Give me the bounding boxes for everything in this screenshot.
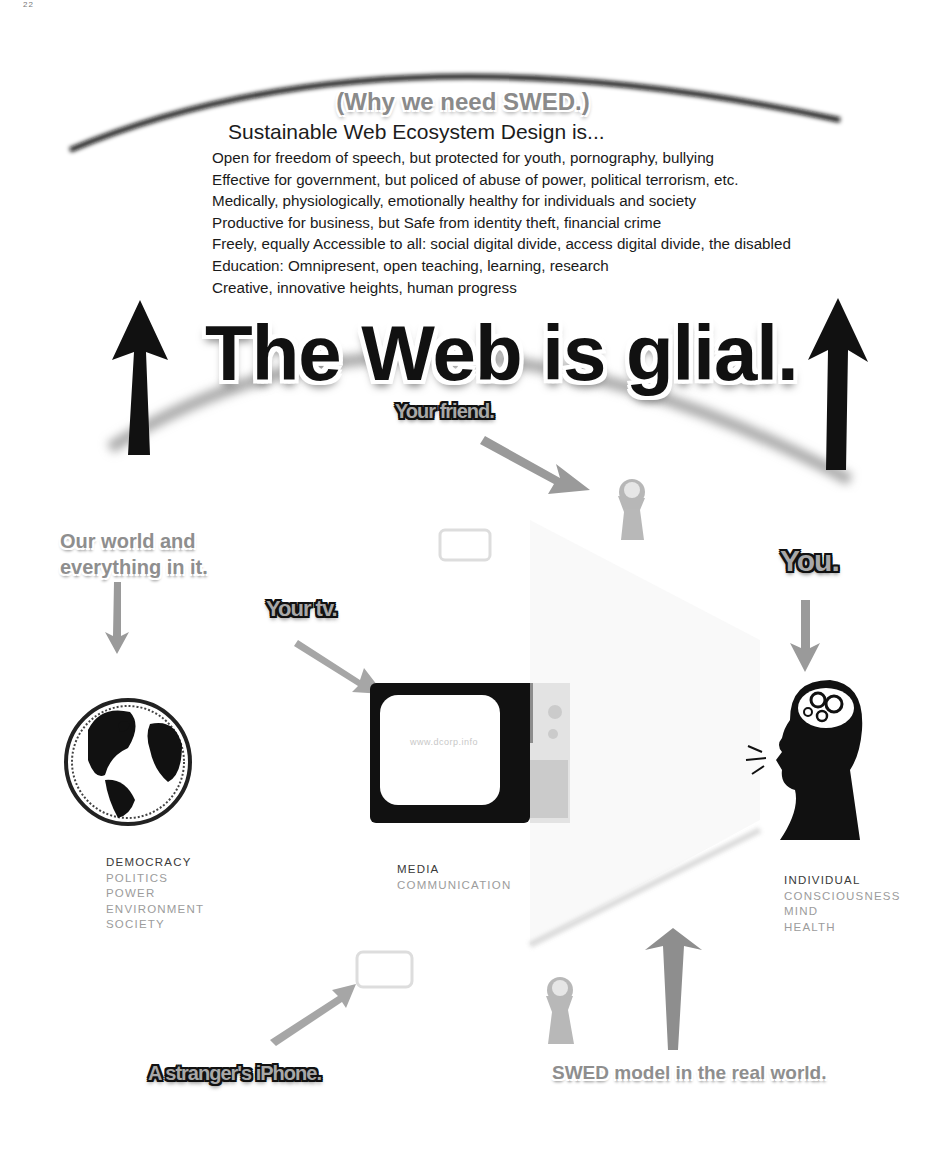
swed-up-arrow-icon — [645, 928, 702, 1050]
main-title: The Web is glial. — [205, 308, 798, 399]
individual-caption-item: MIND — [784, 904, 901, 920]
media-caption-item: COMMUNICATION — [397, 878, 511, 894]
criteria-item: Medically, physiologically, emotionally … — [212, 190, 791, 212]
media-caption-primary: MEDIA — [397, 862, 511, 878]
world-caption-item: ENVIRONMENT — [106, 902, 204, 918]
left-up-arrow-icon — [112, 300, 168, 455]
swed-real-world-label: SWED model in the real world. — [552, 1062, 826, 1084]
our-world-label: Our world and everything in it. — [60, 528, 208, 580]
iphone-arrow-icon — [270, 984, 356, 1046]
individual-caption-primary: INDIVIDUAL — [784, 873, 901, 889]
criteria-item: Productive for business, but Safe from i… — [212, 212, 791, 234]
swed-heading: Sustainable Web Ecosystem Design is... — [228, 120, 605, 144]
criteria-item: Effective for government, but policed of… — [212, 169, 791, 191]
criteria-list: Open for freedom of speech, but protecte… — [212, 147, 791, 298]
world-caption-primary: DEMOCRACY — [106, 855, 204, 871]
faint-head-icon — [546, 977, 574, 1044]
tv-arrow-icon — [294, 640, 384, 694]
friend-head-icon — [618, 479, 645, 540]
individual-caption-item: CONSCIOUSNESS — [784, 889, 901, 905]
world-down-arrow-icon — [105, 582, 129, 654]
individual-caption: INDIVIDUAL CONSCIOUSNESS MIND HEALTH — [784, 873, 901, 935]
world-caption-item: SOCIETY — [106, 917, 204, 933]
you-down-arrow-icon — [790, 600, 820, 672]
our-world-label-line: everything in it. — [60, 554, 208, 580]
faint-tv-icon — [440, 530, 490, 560]
world-caption-item: POLITICS — [106, 871, 204, 887]
head-with-gears-icon — [746, 680, 862, 840]
criteria-item: Education: Omnipresent, open teaching, l… — [212, 255, 791, 277]
friend-arrow-icon — [480, 436, 590, 494]
individual-caption-item: HEALTH — [784, 920, 901, 936]
criteria-item: Open for freedom of speech, but protecte… — [212, 147, 791, 169]
your-tv-label: Your tv. — [266, 596, 337, 622]
tv-screen-text: www.dcorp.info — [410, 737, 478, 747]
world-caption-item: POWER — [106, 886, 204, 902]
strangers-iphone-label: A stranger's iPhone. — [148, 1062, 321, 1085]
your-friend-label: Your friend. — [395, 400, 494, 423]
media-caption: MEDIA COMMUNICATION — [397, 862, 511, 893]
world-caption: DEMOCRACY POLITICS POWER ENVIRONMENT SOC… — [106, 855, 204, 933]
criteria-item: Freely, equally Accessible to all: socia… — [212, 233, 791, 255]
faint-iphone-icon — [357, 952, 412, 987]
why-swed-title: (Why we need SWED.) — [0, 88, 926, 116]
right-up-arrow-icon — [808, 298, 868, 470]
you-label: You. — [780, 544, 839, 578]
faint-screen-plane — [530, 520, 760, 945]
our-world-label-line: Our world and — [60, 528, 208, 554]
globe-icon — [66, 700, 190, 824]
criteria-item: Creative, innovative heights, human prog… — [212, 277, 791, 299]
